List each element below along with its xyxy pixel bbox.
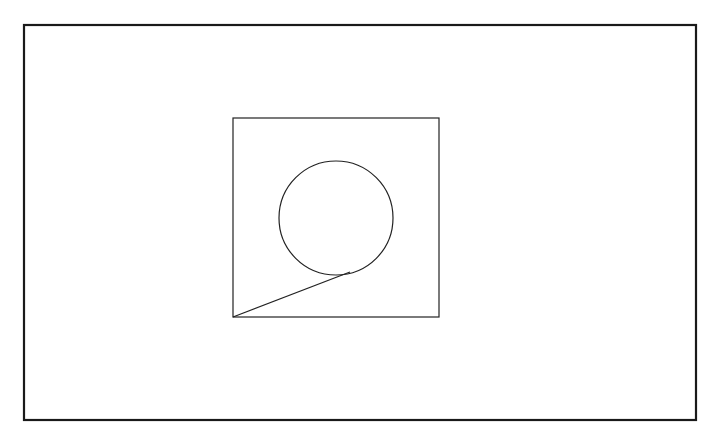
diagram-canvas [0, 0, 718, 436]
outer-frame [24, 25, 696, 420]
circle-shape [279, 161, 393, 275]
square-shape [233, 118, 439, 317]
tangent-line [233, 272, 350, 317]
